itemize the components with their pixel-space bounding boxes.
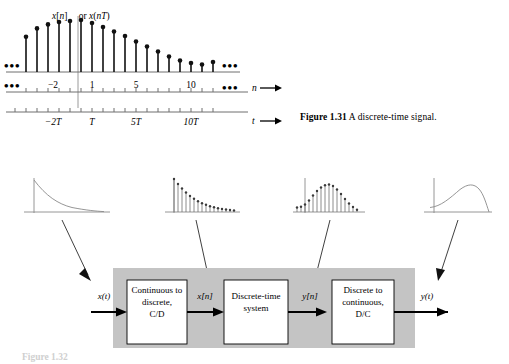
block-dt-line2: system — [243, 303, 268, 313]
textbook-figure-page: x[n] or x(nT) — [0, 0, 509, 364]
t-tick-label-T: T — [89, 117, 95, 127]
n-tick-label-5: 5 — [134, 80, 139, 90]
t-axis-label: t — [252, 116, 255, 126]
figure-1-31-stem-chart: x[n] or x(nT) — [0, 0, 300, 140]
stem-left-ellipsis: ••• — [4, 58, 21, 73]
block-continuous-to-discrete[interactable]: Continuous to discrete, C/D — [127, 280, 187, 344]
block-cd-line1: Continuous to — [132, 285, 183, 295]
t-tick-label-5T: 5T — [131, 117, 142, 127]
stem-dot-group — [24, 18, 216, 67]
n-tick-label-10: 10 — [186, 80, 196, 90]
t-tick-label-minus2T: −2T — [45, 117, 62, 127]
figure-1-31-caption: Figure 1.31 A discrete-time signal. — [300, 112, 437, 122]
signal-label-yt: y(t) — [420, 291, 434, 301]
t-tick-label-10T: 10T — [184, 117, 200, 127]
thumbnail-chart-yt — [424, 178, 492, 213]
t-axis-ticks — [15, 108, 213, 112]
n-tick-label-1: 1 — [90, 80, 95, 90]
n-axis-arrow — [260, 85, 282, 92]
block-dc-line1: Discrete to — [343, 285, 383, 295]
n-axis-left-ellipsis: ••• — [4, 78, 21, 93]
block-dc-line3: D/C — [355, 309, 370, 319]
n-axis-label: n — [252, 83, 257, 93]
signal-label-xn: x[n] — [196, 291, 213, 301]
sampling-system-block-diagram: Continuous to discrete, C/D Discrete-tim… — [0, 160, 509, 364]
thumbnail-chart-xn — [165, 178, 240, 213]
block-cd-line2: discrete, — [142, 297, 172, 307]
figure-1-31-caption-number: Figure 1.31 — [300, 112, 347, 122]
stem-group — [26, 20, 213, 72]
thumbnail-chart-yn — [293, 178, 365, 213]
n-axis-right-ellipsis: ••• — [222, 80, 239, 95]
block-dt-line1: Discrete-time — [232, 291, 281, 301]
block-discrete-to-continuous[interactable]: Discrete to continuous, D/C — [332, 280, 394, 344]
signal-label-yn: y[n] — [301, 291, 318, 301]
t-axis-arrow — [260, 118, 282, 125]
stem-right-ellipsis: ••• — [222, 58, 239, 73]
signal-label-xt: x(t) — [97, 291, 111, 301]
n-tick-label-minus2: −2 — [48, 80, 58, 90]
block-cd-line3: C/D — [149, 309, 165, 319]
pointer-arrow-yt — [436, 220, 458, 281]
figure-1-31-caption-text: A discrete-time signal. — [349, 112, 437, 122]
block-dc-line2: continuous, — [342, 297, 384, 307]
thumbnail-chart-xt — [24, 178, 110, 213]
figure-1-32-caption-partial: Figure 1.32 — [22, 352, 68, 362]
block-discrete-time-system[interactable]: Discrete-time system — [224, 280, 288, 344]
pointer-arrow-xt — [62, 220, 91, 281]
